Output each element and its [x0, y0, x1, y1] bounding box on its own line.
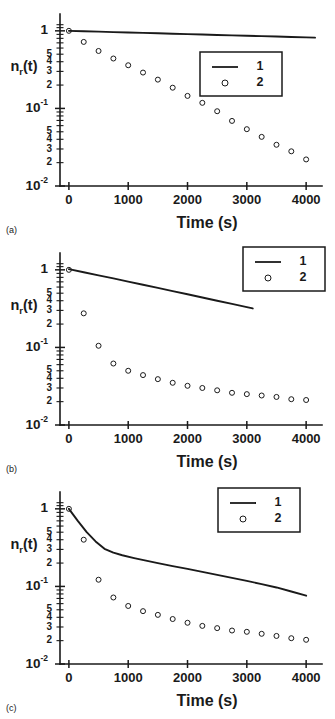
y-tick-minor-label: 3 — [46, 621, 52, 632]
plot-area: 110-110-25432543201000200030004000Time (… — [0, 239, 335, 478]
svg-text:nr(t): nr(t) — [10, 58, 37, 77]
y-tick-minor-label: 3 — [46, 382, 52, 393]
series-line-1 — [69, 269, 253, 308]
y-tick-label: 1 — [40, 500, 48, 515]
data-point — [126, 368, 131, 373]
y-axis-title: nr(t) — [10, 58, 37, 77]
panel-letter: (b) — [6, 464, 17, 474]
y-tick-minor-label: 3 — [46, 543, 52, 554]
data-point — [81, 39, 86, 44]
x-tick-label: 0 — [65, 431, 72, 446]
data-point — [170, 85, 175, 90]
data-point — [289, 397, 294, 402]
x-tick-label: 4000 — [292, 670, 321, 685]
data-point — [244, 629, 249, 634]
data-point — [215, 388, 220, 393]
data-point — [111, 595, 116, 600]
data-point — [200, 100, 205, 105]
data-point — [126, 63, 131, 68]
y-tick-minor-label: 2 — [46, 79, 52, 90]
data-point — [81, 537, 86, 542]
y-tick-minor-label: 3 — [46, 304, 52, 315]
x-tick-label: 2000 — [173, 431, 202, 446]
data-point — [141, 609, 146, 614]
data-point — [289, 149, 294, 154]
data-point — [304, 157, 309, 162]
data-point — [244, 392, 249, 397]
svg-text:nr(t): nr(t) — [10, 297, 37, 316]
data-point — [96, 343, 101, 348]
data-point — [111, 361, 116, 366]
y-tick-label: 10-1 — [25, 337, 48, 354]
y-tick-label: 10-1 — [25, 98, 48, 115]
data-point — [126, 603, 131, 608]
data-point — [274, 142, 279, 147]
legend: 12 — [200, 52, 282, 96]
y-tick-minor-label: 2 — [46, 318, 52, 329]
legend-label-1: 1 — [300, 254, 307, 268]
legend-label-1: 1 — [275, 495, 282, 509]
data-point — [274, 633, 279, 638]
y-tick-label: 10-2 — [25, 175, 48, 192]
x-tick-label: 2000 — [173, 192, 202, 207]
x-tick-label: 4000 — [292, 431, 321, 446]
data-point — [259, 393, 264, 398]
data-point — [185, 620, 190, 625]
legend-label-2: 2 — [257, 75, 264, 89]
legend: 12 — [218, 488, 300, 532]
y-tick-label: 10-2 — [25, 653, 48, 670]
legend-box — [200, 52, 282, 96]
x-tick-label: 4000 — [292, 192, 321, 207]
data-point — [304, 637, 309, 642]
x-tick-label: 1000 — [114, 192, 143, 207]
data-point — [81, 311, 86, 316]
x-tick-label: 0 — [65, 670, 72, 685]
data-point — [200, 623, 205, 628]
plot-area: 110-110-25432543201000200030004000Time (… — [0, 478, 335, 717]
panel-letter: (a) — [6, 225, 17, 235]
x-axis-title: Time (s) — [176, 453, 237, 470]
x-tick-label: 3000 — [232, 192, 261, 207]
data-point — [141, 373, 146, 378]
x-tick-label: 1000 — [114, 431, 143, 446]
y-tick-label: 1 — [40, 22, 48, 37]
data-point — [155, 612, 160, 617]
x-axis-title: Time (s) — [176, 214, 237, 231]
y-tick-minor-label: 3 — [46, 143, 52, 154]
legend-label-1: 1 — [257, 59, 264, 73]
y-tick-minor-label: 2 — [46, 395, 52, 406]
legend-label-2: 2 — [275, 511, 282, 525]
data-point — [200, 385, 205, 390]
data-point — [111, 56, 116, 61]
data-point — [244, 127, 249, 132]
data-point — [155, 77, 160, 82]
y-tick-label: 10-2 — [25, 414, 48, 431]
data-point — [274, 394, 279, 399]
series-line-1 — [69, 31, 315, 38]
y-axis-title: nr(t) — [10, 297, 37, 316]
data-point — [170, 380, 175, 385]
data-point — [230, 118, 235, 123]
legend-box — [243, 247, 325, 291]
data-point — [170, 617, 175, 622]
y-tick-minor-label: 2 — [46, 156, 52, 167]
data-point — [155, 377, 160, 382]
data-point — [96, 577, 101, 582]
data-point — [215, 109, 220, 114]
data-point — [230, 390, 235, 395]
legend-box — [218, 488, 300, 532]
data-point — [259, 134, 264, 139]
data-point — [259, 631, 264, 636]
data-point — [304, 398, 309, 403]
panel-a: 110-110-25432543201000200030004000Time (… — [0, 0, 335, 239]
y-tick-minor-label: 3 — [46, 65, 52, 76]
legend-label-2: 2 — [300, 270, 307, 284]
x-tick-label: 1000 — [114, 670, 143, 685]
x-tick-label: 3000 — [232, 431, 261, 446]
y-tick-minor-label: 2 — [46, 634, 52, 645]
panel-b: 110-110-25432543201000200030004000Time (… — [0, 239, 335, 478]
figure-container: 110-110-25432543201000200030004000Time (… — [0, 0, 335, 719]
y-tick-minor-label: 2 — [46, 557, 52, 568]
svg-text:nr(t): nr(t) — [10, 536, 37, 555]
data-point — [215, 626, 220, 631]
